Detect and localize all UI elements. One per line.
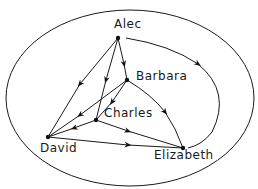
label-barbara: Barbara <box>136 69 187 83</box>
edge-charles-david <box>74 120 96 128</box>
label-charles: Charles <box>104 106 153 120</box>
label-alec: Alec <box>114 17 142 31</box>
edge-alec-elizabeth <box>126 38 198 64</box>
edge-barbara-charles <box>112 80 127 102</box>
boundary-ellipse <box>6 10 254 186</box>
label-david: David <box>40 141 77 155</box>
node-barbara <box>125 78 129 82</box>
label-elizabeth: Elizabeth <box>154 148 214 162</box>
edge-charles-elizabeth <box>96 120 128 131</box>
node-charles <box>94 118 98 122</box>
node-david <box>46 135 50 139</box>
edge-alec-charles <box>106 38 118 80</box>
relationship-diagram: Alec Barbara Charles David Elizabeth <box>0 0 258 189</box>
edge-alec-barbara <box>118 38 124 64</box>
edges <box>48 38 219 148</box>
node-alec <box>116 36 120 40</box>
edge-alec-david <box>80 38 118 84</box>
